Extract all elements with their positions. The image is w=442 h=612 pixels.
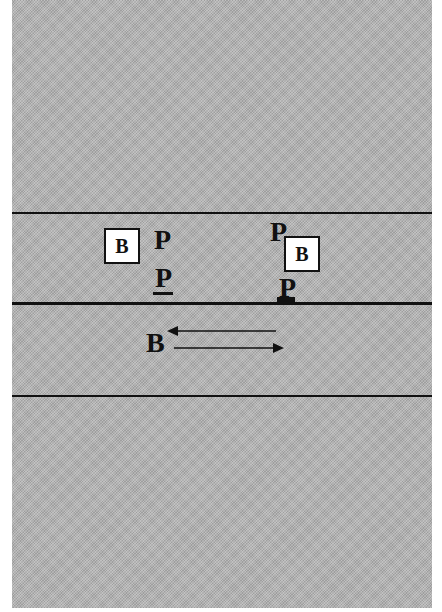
arrow-left-icon: [167, 326, 276, 336]
arrow-right-icon: [174, 343, 284, 353]
traffic-arrows: [0, 0, 442, 612]
